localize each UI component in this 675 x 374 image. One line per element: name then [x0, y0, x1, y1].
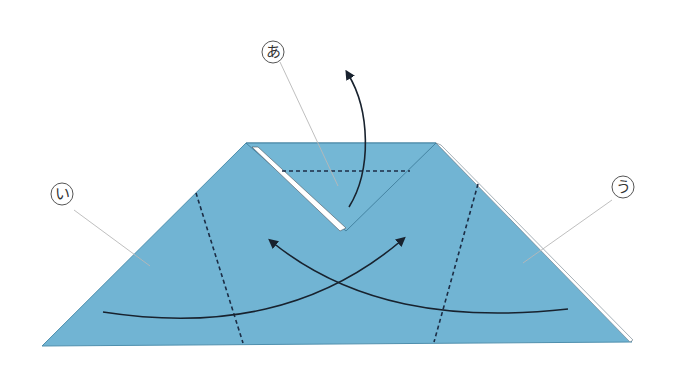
label-i: い	[51, 183, 73, 205]
label-a-text: あ	[266, 43, 281, 61]
label-a: あ	[262, 41, 284, 63]
label-u: う	[612, 176, 634, 198]
leader-line-u	[523, 200, 612, 263]
origami-diagram: あ い う	[0, 0, 675, 374]
label-i-text: い	[55, 185, 70, 203]
leader-line-i	[74, 210, 150, 266]
label-u-text: う	[616, 178, 631, 196]
